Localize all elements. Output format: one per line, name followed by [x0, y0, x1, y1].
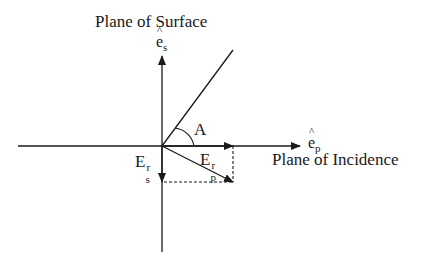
es-reflected-label: E r s [135, 152, 153, 172]
angle-label: A [194, 120, 206, 140]
diagram-canvas [0, 0, 435, 261]
reflected-vector-arrow [162, 146, 233, 182]
angle-arc [175, 128, 194, 146]
ep-reflected-label: E r p [200, 150, 218, 170]
es-unit-vector-label: es [156, 33, 167, 51]
plane-of-incidence-label: Plane of Incidence [272, 150, 399, 170]
plane-of-surface-label: Plane of Surface [95, 12, 207, 32]
